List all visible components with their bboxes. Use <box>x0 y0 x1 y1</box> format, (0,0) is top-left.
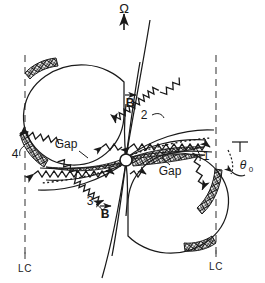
theta-label: θ <box>240 158 247 172</box>
b-vector-upper-label: B <box>126 96 135 110</box>
ray-label-2: 2 <box>141 108 148 122</box>
pulsar-magnetosphere-figure: Ω B B Gap Gap 2 3 4 1 θ 0 LC LC <box>0 0 265 283</box>
ray-label-4: 4 <box>12 147 19 161</box>
b-vector-lower-label: B <box>101 207 110 221</box>
gap-label-right: Gap <box>159 164 182 178</box>
theta-subscript: 0 <box>249 165 254 174</box>
ray-label-1: 1 <box>203 149 210 163</box>
lc-label-right: LC <box>209 261 223 272</box>
ray-label-3: 3 <box>87 194 94 208</box>
neutron-star <box>120 154 132 166</box>
gap-label-left: Gap <box>55 137 78 151</box>
lc-label-left: LC <box>18 263 32 274</box>
diagram-canvas: Ω B B Gap Gap 2 3 4 1 θ 0 LC LC <box>0 0 265 283</box>
omega-label: Ω <box>119 1 129 16</box>
